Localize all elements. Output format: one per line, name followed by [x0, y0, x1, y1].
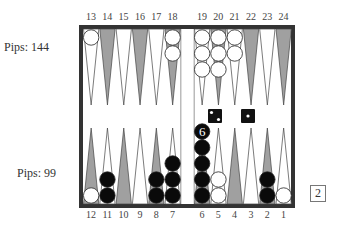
black-checker[interactable] — [260, 172, 275, 187]
point-label-8: 8 — [148, 209, 164, 220]
black-checker[interactable] — [260, 188, 275, 203]
white-checker[interactable] — [194, 62, 209, 77]
white-checker[interactable] — [83, 188, 98, 203]
white-checker[interactable] — [83, 30, 98, 45]
bottom-player-pips: Pips: 99 — [17, 166, 56, 181]
point-label-1: 1 — [276, 209, 292, 220]
point-label-19: 19 — [194, 11, 210, 22]
point-label-17: 17 — [148, 11, 164, 22]
point-label-11: 11 — [99, 209, 115, 220]
black-checker[interactable] — [100, 172, 115, 187]
white-checker[interactable] — [227, 46, 242, 61]
point-label-12: 12 — [83, 209, 99, 220]
black-checker[interactable] — [149, 188, 164, 203]
point-label-6: 6 — [194, 209, 210, 220]
point-label-23: 23 — [259, 11, 275, 22]
point-label-13: 13 — [83, 11, 99, 22]
bar[interactable] — [182, 29, 194, 204]
die-pip — [217, 118, 220, 121]
point-label-9: 9 — [132, 209, 148, 220]
white-checker[interactable] — [211, 62, 226, 77]
white-checker[interactable] — [211, 46, 226, 61]
white-checker[interactable] — [211, 188, 226, 203]
point-label-22: 22 — [243, 11, 259, 22]
white-checker[interactable] — [165, 46, 180, 61]
black-checker[interactable] — [194, 172, 209, 187]
point-label-21: 21 — [227, 11, 243, 22]
stack-count-label: 6 — [199, 124, 206, 139]
white-checker[interactable] — [211, 30, 226, 45]
black-checker[interactable] — [165, 188, 180, 203]
point-label-16: 16 — [132, 11, 148, 22]
black-checker[interactable] — [100, 188, 115, 203]
die-1[interactable] — [208, 109, 222, 123]
die-2[interactable] — [241, 109, 255, 123]
point-label-10: 10 — [116, 209, 132, 220]
point-label-14: 14 — [99, 11, 115, 22]
black-checker[interactable] — [165, 156, 180, 171]
die-pip — [210, 111, 213, 114]
die-pip — [246, 114, 249, 117]
backgammon-board[interactable]: 6 — [79, 25, 295, 208]
point-label-7: 7 — [165, 209, 181, 220]
white-checker[interactable] — [194, 30, 209, 45]
top-player-pips: Pips: 144 — [4, 40, 49, 55]
point-label-24: 24 — [276, 11, 292, 22]
white-checker[interactable] — [165, 30, 180, 45]
point-label-18: 18 — [165, 11, 181, 22]
black-checker[interactable] — [194, 156, 209, 171]
white-checker[interactable] — [227, 30, 242, 45]
point-label-2: 2 — [259, 209, 275, 220]
doubling-cube[interactable]: 2 — [310, 185, 326, 202]
black-checker[interactable] — [194, 188, 209, 203]
point-label-3: 3 — [243, 209, 259, 220]
point-label-15: 15 — [116, 11, 132, 22]
white-checker[interactable] — [276, 188, 291, 203]
point-label-5: 5 — [210, 209, 226, 220]
black-checker[interactable] — [165, 172, 180, 187]
white-checker[interactable] — [194, 46, 209, 61]
black-checker[interactable] — [194, 140, 209, 155]
point-label-20: 20 — [210, 11, 226, 22]
white-checker[interactable] — [211, 172, 226, 187]
black-checker[interactable] — [149, 172, 164, 187]
point-label-4: 4 — [227, 209, 243, 220]
